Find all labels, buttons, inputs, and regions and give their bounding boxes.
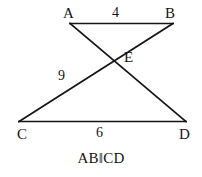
measure-label-ab: 4 <box>112 6 119 20</box>
segment-ad <box>70 24 186 122</box>
figure-caption: AB‖CD <box>0 150 202 167</box>
vertex-label-b: B <box>165 6 175 21</box>
measure-label-ce: 9 <box>58 69 65 83</box>
vertex-label-d: D <box>179 127 190 142</box>
vertex-label-c: C <box>17 127 27 142</box>
vertex-label-a: A <box>63 6 74 21</box>
segment-bc <box>19 24 173 122</box>
vertex-label-e: E <box>124 50 133 65</box>
geometry-figure: A B C D E 4 9 6 AB‖CD <box>0 0 202 177</box>
measure-label-cd: 6 <box>96 126 103 140</box>
